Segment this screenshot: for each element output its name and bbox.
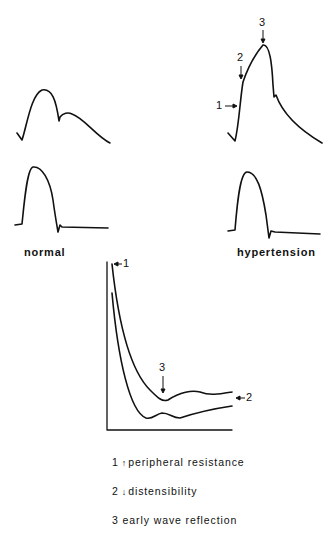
normal-label: normal — [24, 246, 65, 258]
figure-canvas — [0, 0, 335, 535]
legend-item-2: 2↓distensibility — [112, 485, 197, 497]
arrow-head-icon — [236, 396, 240, 400]
arrow-head-icon — [261, 39, 265, 43]
arrow-head-icon — [239, 75, 243, 79]
marker-2-hyp: 2 — [237, 51, 243, 63]
marker-3-imp: 3 — [159, 361, 165, 373]
hypertension-label: hypertension — [237, 246, 316, 258]
arrow-head-icon — [161, 389, 165, 393]
hypertension-flow-waveform — [228, 172, 320, 238]
legend-item-1: 1↑peripheral resistance — [112, 456, 245, 468]
arrow-head-icon — [114, 262, 118, 266]
arrow-head-icon — [233, 104, 237, 108]
marker-1-hyp: 1 — [216, 99, 222, 111]
arrow-up-icon: ↑ — [122, 458, 127, 468]
normal-flow-waveform — [15, 167, 108, 232]
normal-pressure-waveform — [17, 90, 110, 143]
legend-item-3: 3 early wave reflection — [112, 514, 237, 526]
marker-2-imp: 2 — [246, 391, 252, 403]
marker-1-imp: 1 — [123, 257, 129, 269]
impedance-axes — [107, 262, 232, 430]
marker-3-hyp: 3 — [259, 16, 265, 28]
impedance-curve-1 — [112, 264, 232, 401]
arrow-down-icon: ↓ — [122, 487, 127, 497]
